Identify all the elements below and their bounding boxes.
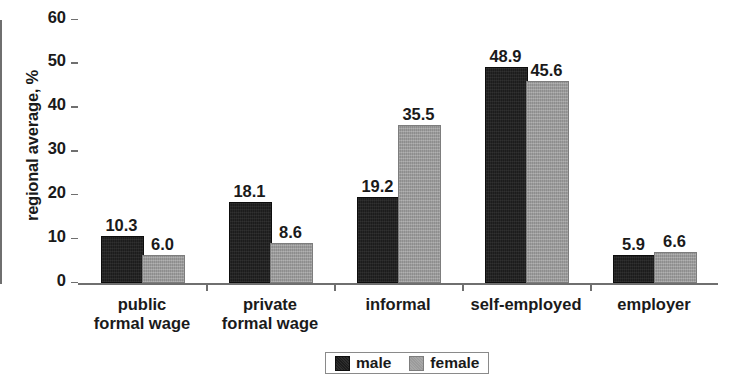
bar-value-label: 35.5 xyxy=(390,105,447,124)
y-axis-tick-label: 40 xyxy=(48,95,66,114)
x-axis-category-label: informal xyxy=(334,295,462,314)
x-axis-category-label: public formal wage xyxy=(78,295,206,333)
legend-label-male: male xyxy=(356,354,391,372)
y-axis-title: regional average, % xyxy=(23,16,42,276)
legend-label-female: female xyxy=(430,354,479,372)
y-axis-tick: 0 xyxy=(71,282,78,284)
plot-area: 010203040506010.36.0public formal wage18… xyxy=(78,20,718,283)
y-axis-tick-label: 50 xyxy=(48,51,66,70)
bar-male-3 xyxy=(357,197,400,283)
bar-value-label: 8.6 xyxy=(262,223,319,242)
bar-female-1 xyxy=(142,255,185,283)
y-axis-tick: 50 xyxy=(71,62,78,64)
male-swatch-icon xyxy=(335,356,350,371)
chart-legend: male female xyxy=(325,352,489,374)
x-axis-tick xyxy=(462,283,464,291)
bar-value-label: 10.3 xyxy=(93,216,150,235)
bar-male-2 xyxy=(229,202,272,283)
bar-female-5 xyxy=(654,252,697,283)
bar-male-5 xyxy=(613,255,656,283)
x-axis-category-label: private formal wage xyxy=(206,295,334,333)
female-swatch-icon xyxy=(409,356,424,371)
bar-value-label: 6.6 xyxy=(646,232,703,251)
y-axis-tick: 30 xyxy=(71,150,78,152)
bar-female-2 xyxy=(270,243,313,283)
y-axis-tick-label: 0 xyxy=(57,271,66,290)
y-axis-tick-label: 60 xyxy=(48,8,66,27)
x-axis-tick xyxy=(206,283,208,291)
x-axis-tick xyxy=(334,283,336,291)
bar-value-label: 6.0 xyxy=(134,235,191,254)
bar-value-label: 45.6 xyxy=(518,61,575,80)
y-axis-tick: 10 xyxy=(71,238,78,240)
y-axis-line xyxy=(0,20,2,284)
bar-female-3 xyxy=(398,125,441,283)
legend-item-female: female xyxy=(409,354,479,372)
y-axis-tick-label: 10 xyxy=(48,227,66,246)
y-axis-tick-label: 20 xyxy=(48,183,66,202)
y-axis-tick: 20 xyxy=(71,194,78,196)
x-axis-line xyxy=(78,283,718,285)
y-axis-tick-label: 30 xyxy=(48,139,66,158)
bar-value-label: 18.1 xyxy=(221,182,278,201)
x-axis-category-label: employer xyxy=(590,295,718,314)
legend-item-male: male xyxy=(335,354,391,372)
x-axis-tick xyxy=(590,283,592,291)
bar-male-4 xyxy=(485,67,528,283)
y-axis-tick: 60 xyxy=(71,19,78,21)
y-axis-tick: 40 xyxy=(71,106,78,108)
bar-female-4 xyxy=(526,81,569,283)
bar-chart: regional average, % 010203040506010.36.0… xyxy=(0,0,736,378)
x-axis-category-label: self-employed xyxy=(462,295,590,314)
